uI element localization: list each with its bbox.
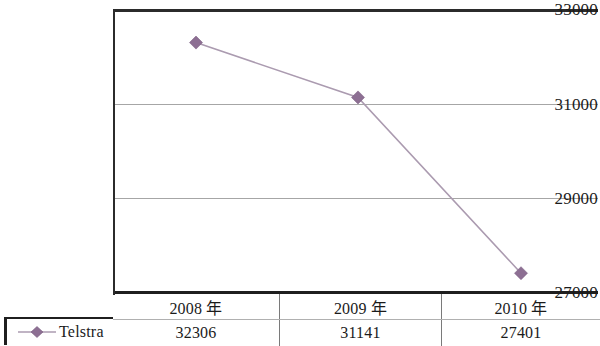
legend-label-telstra: Telstra [59, 324, 104, 340]
data-point-marker-2008 [190, 36, 203, 49]
series-telstra [0, 0, 598, 294]
series-line-telstra [196, 43, 521, 274]
data-table: 2008 年 2009 年 2010 年 32306 31141 27401 [113, 294, 600, 346]
table-header-2008: 2008 年 [113, 294, 280, 320]
plot-area: 33000 31000 29000 27000 [0, 0, 598, 294]
table-header-row: 2008 年 2009 年 2010 年 [113, 294, 600, 320]
table-cell-telstra-2010: 27401 [442, 320, 600, 346]
table-header-2009: 2009 年 [280, 294, 442, 320]
table-cell-telstra-2008: 32306 [113, 320, 280, 346]
table-header-2010: 2010 年 [442, 294, 600, 320]
legend: Telstra [4, 317, 113, 345]
diamond-marker-icon [18, 326, 56, 338]
table-cell-telstra-2009: 31141 [280, 320, 442, 346]
data-table-block: Telstra 2008 年 2009 年 2010 年 32306 31141… [0, 294, 598, 345]
table-row: 32306 31141 27401 [113, 320, 600, 346]
series-markers-telstra [190, 36, 528, 280]
